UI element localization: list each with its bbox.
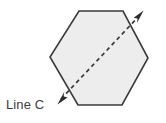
hexagon-line-of-symmetry-diagram: Line C xyxy=(0,0,166,123)
line-c-label: Line C xyxy=(6,97,44,112)
